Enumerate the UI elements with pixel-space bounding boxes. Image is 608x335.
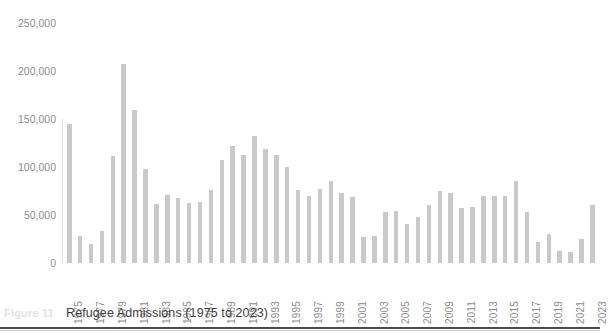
bar-slot: [249, 0, 260, 263]
bar: [525, 212, 530, 263]
figure-caption-text: Refugee Admissions (1975 to 2023): [66, 306, 268, 320]
bar: [492, 196, 497, 263]
bar-slot: [511, 0, 522, 263]
bar-slot: [456, 0, 467, 263]
bar-series: [64, 0, 598, 263]
y-axis-tick-labels: 250,000200,000150,000100,00050,0000: [0, 0, 62, 268]
bar: [252, 136, 257, 263]
bar-slot: [195, 0, 206, 263]
y-axis-tick-label: 100,000: [18, 161, 56, 173]
bar-slot: [217, 0, 228, 263]
bar-slot: [260, 0, 271, 263]
bar: [187, 203, 192, 263]
bar: [459, 208, 464, 263]
bar: [405, 224, 410, 263]
bar: [568, 252, 573, 263]
bar: [220, 160, 225, 263]
bar-slot: [118, 0, 129, 263]
bar: [339, 193, 344, 263]
bar: [372, 236, 377, 263]
bar: [329, 181, 334, 263]
bar-slot: [97, 0, 108, 263]
bar-slot: [587, 0, 598, 263]
bar: [547, 234, 552, 263]
y-axis-tick-label: 50,000: [24, 209, 56, 221]
bar-slot: [478, 0, 489, 263]
bar-slot: [402, 0, 413, 263]
bar: [590, 205, 595, 263]
bar-slot: [435, 0, 446, 263]
bar-slot: [293, 0, 304, 263]
bar-slot: [184, 0, 195, 263]
bar-slot: [282, 0, 293, 263]
bar: [361, 237, 366, 263]
bar-slot: [576, 0, 587, 263]
bar: [318, 189, 323, 263]
bar-slot: [227, 0, 238, 263]
bar-slot: [326, 0, 337, 263]
bar-slot: [565, 0, 576, 263]
bar: [263, 149, 268, 263]
bar: [307, 196, 312, 263]
bar: [296, 190, 301, 263]
bar-slot: [173, 0, 184, 263]
bar-slot: [391, 0, 402, 263]
y-axis-tick-label: 200,000: [18, 65, 56, 77]
bar-slot: [544, 0, 555, 263]
bar-slot: [140, 0, 151, 263]
caption-divider-hairline: [0, 330, 600, 331]
y-axis-tick-label: 250,000: [18, 17, 56, 29]
x-axis-tick-labels: 1975197719791981198319851987198919911993…: [64, 265, 598, 305]
bar-slot: [315, 0, 326, 263]
bar: [241, 155, 246, 263]
bar: [176, 198, 181, 263]
bar-slot: [358, 0, 369, 263]
bar-slot: [151, 0, 162, 263]
bar-slot: [413, 0, 424, 263]
bar-slot: [75, 0, 86, 263]
bar: [209, 190, 214, 263]
bar: [394, 211, 399, 263]
bar-slot: [64, 0, 75, 263]
bar: [438, 191, 443, 263]
bar-slot: [522, 0, 533, 263]
bar: [165, 195, 170, 263]
bar: [143, 169, 148, 263]
bar-slot: [533, 0, 544, 263]
bar: [514, 181, 519, 263]
bar: [132, 110, 137, 263]
bar: [470, 207, 475, 263]
bar: [100, 231, 105, 263]
bar-slot: [336, 0, 347, 263]
bar-slot: [445, 0, 456, 263]
bar: [89, 244, 94, 263]
bar-slot: [500, 0, 511, 263]
bar-slot: [304, 0, 315, 263]
bar-slot: [424, 0, 435, 263]
bar-slot: [489, 0, 500, 263]
bar-slot: [206, 0, 217, 263]
bar-slot: [467, 0, 478, 263]
bar: [448, 193, 453, 263]
bar: [536, 242, 541, 263]
bar-slot: [554, 0, 565, 263]
y-axis-tick-label: 150,000: [18, 113, 56, 125]
bar: [67, 124, 72, 263]
figure-caption-row: Figure 11 Refugee Admissions (1975 to 20…: [0, 305, 600, 327]
bar-slot: [129, 0, 140, 263]
bar: [481, 196, 486, 263]
y-axis-tick-label: 0: [50, 257, 56, 269]
bar-slot: [347, 0, 358, 263]
bar-slot: [369, 0, 380, 263]
bar: [383, 212, 388, 263]
bar: [427, 205, 432, 263]
bar: [198, 202, 203, 263]
bar: [285, 167, 290, 263]
bar-slot: [162, 0, 173, 263]
y-axis-line: [62, 119, 63, 263]
bar: [579, 239, 584, 263]
bar: [111, 156, 116, 263]
bar-slot: [238, 0, 249, 263]
bar: [121, 64, 126, 263]
